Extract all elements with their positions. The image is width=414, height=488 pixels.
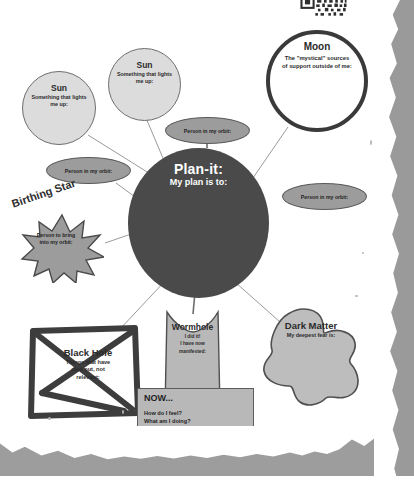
sun-left-prompt-line2: me up: <box>50 101 68 107</box>
moon-prompt-line2: of support outside of me: <box>273 63 361 70</box>
black-hole-text: Black Hole Things that have died out, no… <box>52 348 124 380</box>
wormhole-prompt-line1: I did it! <box>163 334 222 340</box>
dark-matter-text: Dark Matter My deepest fear is: <box>272 321 350 338</box>
orbit-right-label: Person in my orbit: <box>301 194 348 200</box>
wormhole-prompt-line2: I have now <box>163 341 222 347</box>
sun-top-title: Sun <box>136 61 152 70</box>
plan-it-prompt: My plan is to: <box>170 177 228 187</box>
wormhole-text: Wormhole I did it! I have now manifested… <box>163 323 222 354</box>
scan-fleck <box>48 417 51 420</box>
scan-fleck <box>355 295 358 297</box>
now-box-title: NOW... <box>144 393 173 403</box>
node-birthing-star[interactable] <box>20 213 104 283</box>
moon-title: Moon <box>304 42 331 53</box>
black-hole-prompt-line1: Things that have <box>52 359 124 365</box>
node-orbit-top[interactable]: Person in my orbit: <box>165 117 250 144</box>
sun-left-title: Sun <box>51 84 67 93</box>
node-plan-it-center[interactable]: Plan-it: My plan is to: <box>128 148 269 298</box>
birthing-star-prompt: Person to bring into my orbit: <box>25 232 87 245</box>
wormhole-title: Wormhole <box>163 323 222 332</box>
moon-prompt-line1: The "mystical" sources <box>273 55 361 62</box>
qr-code-icon <box>296 0 352 20</box>
black-hole-title: Black Hole <box>52 348 124 358</box>
link-center-moon <box>253 127 288 178</box>
sun-left-prompt-line1: Something that lights <box>31 94 86 100</box>
node-sun-left[interactable]: Sun Something that lights me up: <box>22 71 96 145</box>
scan-fleck <box>370 140 372 145</box>
plan-it-title: Plan-it: <box>174 162 223 177</box>
node-orbit-left[interactable]: Person in my orbit: <box>46 157 131 184</box>
link-center-blackhole <box>120 280 166 329</box>
scan-bottom-strip <box>0 476 414 488</box>
orbit-top-label: Person in my orbit: <box>184 128 231 134</box>
dark-matter-title: Dark Matter <box>272 321 350 331</box>
sun-top-prompt-line1: Something that lights <box>117 71 172 77</box>
black-hole-prompt-line2: died out, not <box>52 366 124 372</box>
node-moon[interactable]: Moon The "mystical" sources of support o… <box>266 30 368 132</box>
now-box-question-1: How do I feel? <box>144 409 217 417</box>
now-box-question-2: What am I doing? <box>144 417 217 425</box>
node-sun-top[interactable]: Sun Something that lights me up: <box>108 48 181 121</box>
dark-matter-prompt: My deepest fear is: <box>272 332 350 338</box>
black-hole-prompt-line3: relevant: <box>52 374 124 380</box>
sun-top-prompt-line2: me up: <box>136 78 154 84</box>
star-shape <box>22 215 104 283</box>
worksheet-page: Sun Something that lights me up: Sun Som… <box>0 0 414 488</box>
birthing-star-prompt-line2: into my orbit: <box>25 239 87 246</box>
node-orbit-right[interactable]: Person in my orbit: <box>282 183 367 210</box>
orbit-left-label: Person in my orbit: <box>65 168 112 174</box>
scan-edge-right <box>380 0 414 488</box>
scan-fleck <box>362 252 364 254</box>
scan-fleck <box>122 410 124 414</box>
wormhole-prompt-line3: manifested: <box>163 349 222 355</box>
